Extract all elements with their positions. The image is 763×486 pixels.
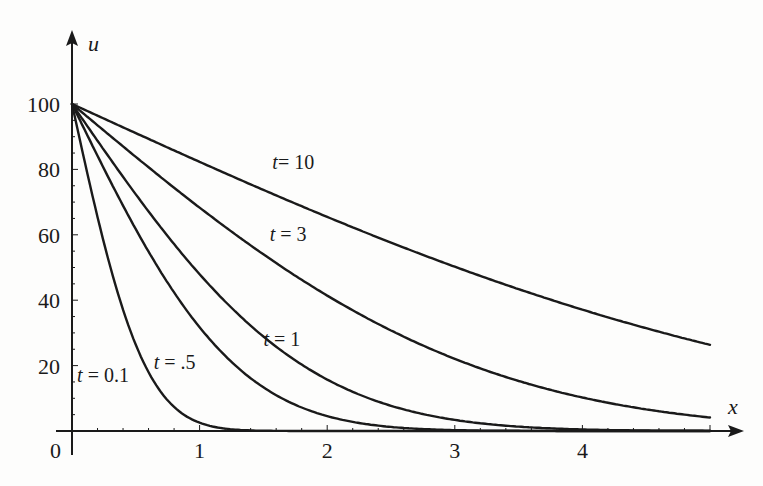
curve-label: t = 1 <box>263 328 300 350</box>
chart: u x 0 123420406080100 t = 0.1t = .5t = 1… <box>0 0 763 486</box>
curve-t-1 <box>72 104 710 431</box>
y-tick-label: 100 <box>27 92 60 117</box>
curve-label: t = 0.1 <box>77 364 129 386</box>
y-tick-label: 40 <box>38 288 60 313</box>
curve-label: t= 10 <box>272 151 314 173</box>
origin-label: 0 <box>50 438 61 463</box>
ticks <box>72 104 710 431</box>
x-tick-label: 2 <box>322 438 333 463</box>
x-axis-label: x <box>727 394 738 419</box>
x-tick-label: 3 <box>449 438 460 463</box>
y-axis-label: u <box>88 31 99 56</box>
tick-labels: 123420406080100 <box>27 92 588 463</box>
x-tick-label: 1 <box>194 438 205 463</box>
curves <box>72 104 710 431</box>
y-tick-label: 80 <box>38 157 60 182</box>
x-tick-label: 4 <box>577 438 588 463</box>
curve-t-10 <box>72 104 710 345</box>
curve-label: t = 3 <box>270 223 307 245</box>
curve-label: t = .5 <box>154 351 196 373</box>
labels: u x 0 <box>50 31 738 463</box>
curve-t-0-1 <box>72 104 710 431</box>
curve-t-5 <box>72 104 710 431</box>
y-tick-label: 20 <box>38 354 60 379</box>
y-tick-label: 60 <box>38 223 60 248</box>
